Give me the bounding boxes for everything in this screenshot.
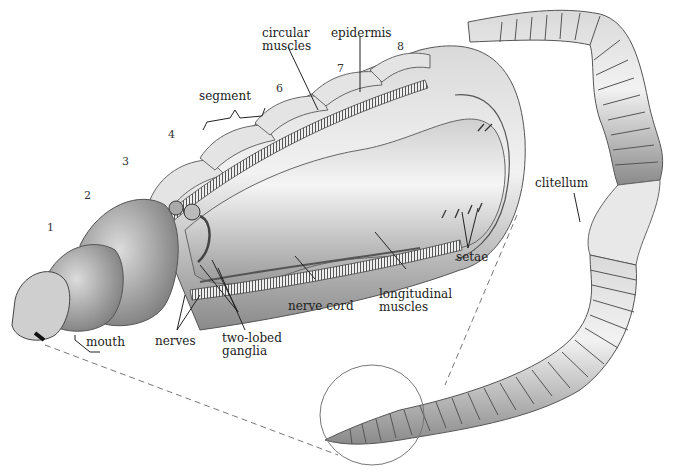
segment-number-4: 4: [168, 128, 175, 141]
label-circular-muscles-line2: muscles: [262, 40, 311, 53]
label-epidermis: epidermis: [331, 27, 392, 40]
segment-number-2: 2: [84, 189, 91, 202]
segment-number-3: 3: [122, 155, 129, 168]
label-nerves: nerves: [155, 335, 196, 348]
label-two-lobed-ganglia-line2: ganglia: [222, 345, 267, 358]
dashed-guide-lower: [45, 345, 338, 455]
segment-number-1: 1: [47, 221, 54, 234]
label-clitellum: clitellum: [535, 177, 588, 190]
label-segment: segment: [199, 90, 251, 103]
label-setae: setae: [456, 251, 488, 264]
segment-number-7: 7: [337, 62, 344, 75]
label-mouth: mouth: [86, 336, 125, 349]
label-nerve-cord: nerve cord: [288, 300, 354, 313]
segment-number-8: 8: [397, 40, 404, 53]
worm-head: [12, 199, 178, 340]
clitellum-band: [588, 180, 660, 265]
segment-number-6: 6: [276, 82, 283, 95]
label-longitudinal-muscles-line2: muscles: [379, 301, 428, 314]
